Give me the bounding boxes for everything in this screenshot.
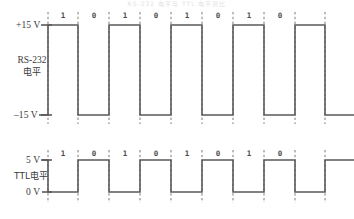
ttl-waveform (41, 160, 354, 192)
ttl-timing-gridlines (48, 150, 325, 203)
rs232-timing-gridlines (48, 12, 325, 124)
signal-level-diagram: RS-232 电平与 TTL 电平对比 +15 V –15 V RS-232 电… (0, 0, 354, 219)
rs232-waveform (41, 25, 354, 115)
waveform-canvas (0, 0, 354, 219)
